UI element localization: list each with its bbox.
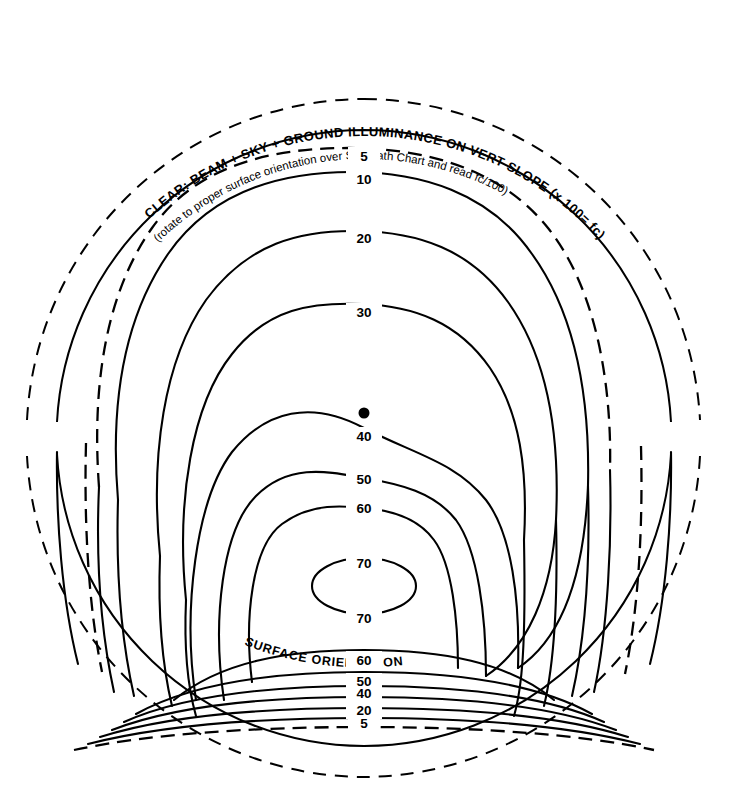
contour-label: 20 — [356, 231, 371, 246]
contour-label-wrap: 30 — [346, 303, 382, 321]
contour-tail-left-c — [118, 500, 134, 696]
center-point-marker — [359, 408, 370, 419]
contour-label: 10 — [356, 172, 371, 187]
contour-label: 40 — [356, 686, 371, 701]
chart-canvas: CLEAR: BEAM + SKY + GROUND ILLUMINANCE O… — [0, 0, 735, 812]
contour-labels-group: 5 10 20 30 40 50 — [346, 147, 382, 732]
contour-label-wrap: 40 — [346, 686, 382, 702]
contour-label-wrap: 70 — [346, 554, 382, 572]
contour-label: 60 — [356, 653, 371, 668]
contour-tail-right-b — [594, 470, 610, 692]
contour-label: 5 — [360, 149, 368, 164]
illuminance-contour-chart: CLEAR: BEAM + SKY + GROUND ILLUMINANCE O… — [0, 0, 735, 812]
contour-label-wrap: 70 — [346, 609, 382, 627]
contour-label: 40 — [356, 429, 371, 444]
contour-tail-right-e — [514, 540, 525, 716]
contour-label: 50 — [356, 472, 371, 487]
contour-label-wrap: 5 — [348, 716, 380, 732]
contour-label-wrap: 50 — [346, 470, 382, 488]
chart-subtitle: (rotate to proper surface orientation ov… — [151, 149, 510, 244]
contour-label: 5 — [360, 716, 368, 731]
contour-label-wrap: 60 — [346, 651, 382, 669]
contour-label: 60 — [356, 501, 371, 516]
contour-tail-left-d — [160, 556, 173, 706]
contour-label-wrap: 40 — [346, 427, 382, 445]
contour-tail-left-dashed — [86, 443, 102, 672]
contour-label-wrap: 10 — [346, 170, 382, 188]
contour-label-wrap: 20 — [346, 229, 382, 247]
contour-right-lobe-mid — [486, 520, 556, 676]
contour-label: 30 — [356, 305, 371, 320]
contour-label: 70 — [356, 611, 371, 626]
contour-label-wrap: 60 — [346, 499, 382, 517]
contour-label-wrap: 5 — [348, 147, 380, 165]
contour-tail-right-d — [544, 520, 557, 706]
contour-label: 70 — [356, 556, 371, 571]
